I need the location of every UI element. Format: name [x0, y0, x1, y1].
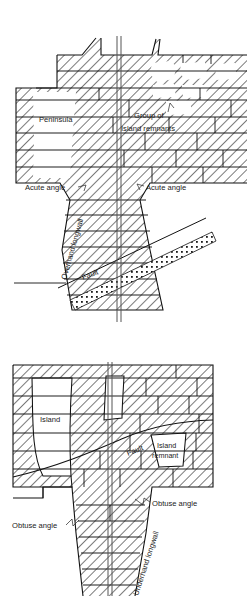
label-group-of: Group of	[134, 111, 164, 120]
label-island-remnant-line1: Island	[157, 441, 176, 450]
label-island-remnants: Island remnants	[121, 124, 175, 133]
label-obtuse-angle-right: Obtuse angle	[152, 499, 197, 508]
label-island-remnant-line2: remnant	[152, 451, 178, 460]
label-peninsula: Peninsula	[39, 115, 73, 124]
label-acute-angle-right: Acute angle	[146, 183, 186, 192]
upper-diagram: Peninsula Group of Island remnants Acute…	[0, 0, 247, 330]
lower-diagram: Island Fault Island remnant Obtuse angle…	[0, 358, 247, 596]
label-island: Island	[40, 415, 60, 424]
figure-root: Peninsula Group of Island remnants Acute…	[0, 0, 247, 596]
label-acute-angle-left: Acute angle	[25, 183, 65, 192]
label-obtuse-angle-left: Obtuse angle	[12, 521, 57, 530]
